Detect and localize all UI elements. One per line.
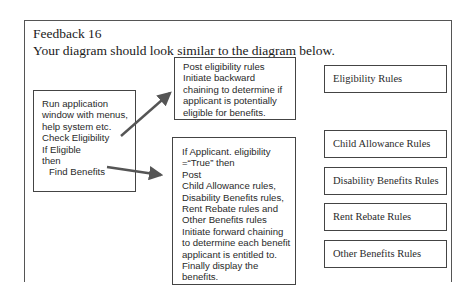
arrow-to-backward-chaining <box>121 93 170 136</box>
connector-arrows <box>0 0 474 305</box>
arrow-to-forward-chaining <box>107 167 161 175</box>
